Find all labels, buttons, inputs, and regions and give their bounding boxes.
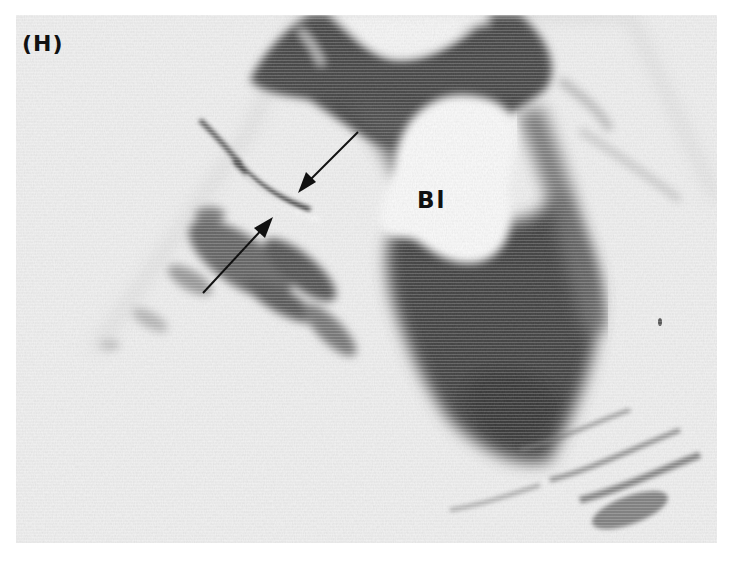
bladder-label: Bl <box>417 187 446 213</box>
panel-label: (H) <box>22 31 64 56</box>
ultrasound-scan-graphic <box>16 15 717 543</box>
page: (H) Bl <box>0 0 736 565</box>
ultrasound-image <box>16 15 717 543</box>
